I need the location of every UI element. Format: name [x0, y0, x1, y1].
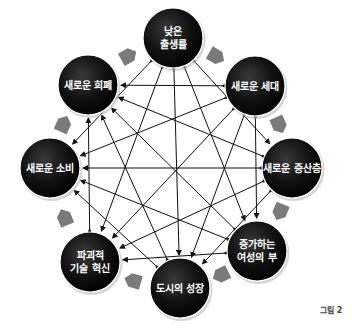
node-rising-female-wealth: 증가하는여성의 부 [227, 221, 290, 284]
node-urban-growth: 도시의 성장 [150, 258, 213, 321]
node-label: 증가하는 [239, 238, 275, 250]
node-disruptive-tech: 파괴적기술 혁신 [60, 232, 123, 295]
node-label: 여성의 부 [237, 251, 276, 263]
node-new-currency: 새로운 회폐 [58, 55, 121, 118]
connection-arrow [88, 118, 89, 229]
ring-arrow-icon [55, 207, 75, 228]
node-low-birthrate: 낮은출생률 [143, 8, 206, 71]
ring-arrow-icon [210, 265, 231, 285]
ring-arrow-icon [270, 202, 290, 223]
node-label: 새로운 중산층 [263, 162, 320, 174]
node-label: 낮은 [164, 25, 182, 37]
ring-arrow-icon [206, 46, 228, 67]
node-new-consumption: 새로운 소비 [20, 138, 83, 201]
node-label: 새로운 회폐 [64, 79, 112, 91]
connection-arrow [113, 110, 233, 238]
node-new-generation: 새로운 세대 [225, 56, 288, 119]
node-new-middle-class: 새로운 중산층 [262, 138, 325, 201]
ring-arrow-icon [269, 115, 289, 136]
node-label: 새로운 소비 [26, 162, 74, 174]
connection-arrow [121, 85, 222, 86]
ring-arrow-icon [54, 113, 74, 134]
node-label: 출생률 [160, 38, 187, 50]
connection-arrow [174, 71, 179, 255]
figure-label: 그림 2 [320, 304, 342, 315]
cycle-diagram: 낮은출생률새로운 세대새로운 중산층증가하는여성의 부도시의 성장파괴적기술 혁… [0, 0, 358, 336]
nodes: 낮은출생률새로운 세대새로운 중산층증가하는여성의 부도시의 성장파괴적기술 혁… [20, 8, 325, 321]
ring-arrow-icon [118, 45, 140, 65]
connection-arrow [102, 115, 167, 258]
node-label: 파괴적 [77, 249, 104, 261]
node-label: 도시의 성장 [156, 282, 205, 294]
ring-arrow-icon [122, 271, 142, 289]
node-label: 기술 혁신 [70, 262, 109, 274]
node-label: 새로운 세대 [231, 80, 279, 92]
